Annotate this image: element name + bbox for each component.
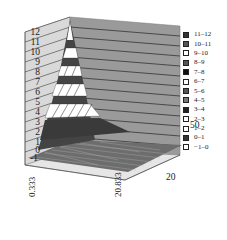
y-tick: 5	[28, 98, 40, 107]
legend-swatch-icon	[183, 60, 189, 66]
y-tick: 12	[28, 28, 40, 37]
legend-item: 3–4	[183, 105, 227, 114]
legend-item: 1–2	[183, 124, 227, 133]
y-tick: 11	[28, 38, 40, 47]
legend-item: 5–6	[183, 86, 227, 95]
legend-swatch-icon	[183, 88, 189, 94]
y-tick: 9	[28, 58, 40, 67]
y-tick: 8	[28, 68, 40, 77]
y-tick: 10	[28, 48, 40, 57]
legend-swatch-icon	[183, 144, 189, 150]
legend-item: 6–7	[183, 77, 227, 86]
x-tick-start: 0.333	[27, 177, 37, 197]
legend-item: −1–0	[183, 143, 227, 152]
y-tick: 3	[28, 118, 40, 127]
legend-swatch-icon	[183, 97, 189, 103]
legend-swatch-icon	[183, 135, 189, 141]
legend-swatch-icon	[183, 41, 189, 47]
legend-swatch-icon	[183, 126, 189, 132]
legend-swatch-icon	[183, 32, 189, 38]
legend-item: 10–11	[183, 39, 227, 48]
x-tick-end: 20.833	[113, 172, 123, 197]
z-tick-20: 20	[166, 172, 176, 182]
y-tick: -1	[26, 154, 38, 163]
legend-item: 11–12	[183, 30, 227, 39]
legend-swatch-icon	[183, 50, 189, 56]
legend-item: 0–1	[183, 133, 227, 142]
y-tick: 6	[28, 88, 40, 97]
y-tick: 2	[28, 128, 40, 137]
legend-swatch-icon	[183, 69, 189, 75]
legend-swatch-icon	[183, 79, 189, 85]
legend-swatch-icon	[183, 116, 189, 122]
legend-item: 4–5	[183, 96, 227, 105]
legend-item: 7–8	[183, 68, 227, 77]
legend-item: 2–3	[183, 115, 227, 124]
legend: 11–12 10–11 9–10 8–9 7–8 6–7 5–6 4–5 3–4…	[183, 30, 227, 152]
legend-swatch-icon	[183, 107, 189, 113]
y-tick: 4	[28, 108, 40, 117]
legend-item: 9–10	[183, 49, 227, 58]
legend-item: 8–9	[183, 58, 227, 67]
y-tick: 7	[28, 78, 40, 87]
